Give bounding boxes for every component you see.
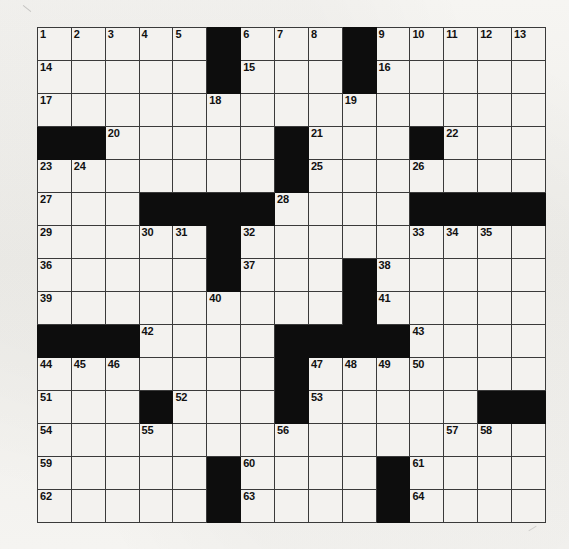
crossword-cell[interactable]: 57 <box>444 424 478 457</box>
crossword-cell[interactable] <box>308 457 342 490</box>
crossword-cell[interactable]: 30 <box>139 226 173 259</box>
crossword-cell[interactable] <box>512 127 546 160</box>
crossword-cell[interactable] <box>71 292 105 325</box>
crossword-cell[interactable] <box>241 358 275 391</box>
crossword-cell[interactable] <box>173 160 207 193</box>
crossword-cell[interactable] <box>241 391 275 424</box>
crossword-cell[interactable]: 7 <box>275 28 309 61</box>
crossword-cell[interactable] <box>105 61 139 94</box>
crossword-cell[interactable] <box>512 292 546 325</box>
crossword-cell[interactable]: 21 <box>308 127 342 160</box>
crossword-cell[interactable] <box>207 160 241 193</box>
crossword-cell[interactable] <box>478 259 512 292</box>
crossword-cell[interactable] <box>105 160 139 193</box>
crossword-cell[interactable] <box>71 259 105 292</box>
crossword-cell[interactable]: 59 <box>38 457 72 490</box>
crossword-cell[interactable] <box>512 424 546 457</box>
crossword-cell[interactable] <box>173 259 207 292</box>
crossword-cell[interactable]: 31 <box>173 226 207 259</box>
crossword-cell[interactable] <box>308 292 342 325</box>
crossword-cell[interactable] <box>241 325 275 358</box>
crossword-cell[interactable] <box>444 259 478 292</box>
crossword-cell[interactable] <box>376 94 410 127</box>
crossword-cell[interactable] <box>308 193 342 226</box>
crossword-cell[interactable] <box>410 94 444 127</box>
crossword-cell[interactable]: 33 <box>410 226 444 259</box>
crossword-cell[interactable] <box>512 457 546 490</box>
crossword-cell[interactable]: 62 <box>38 490 72 523</box>
crossword-cell[interactable] <box>139 160 173 193</box>
crossword-cell[interactable] <box>376 160 410 193</box>
crossword-cell[interactable] <box>139 292 173 325</box>
crossword-cell[interactable]: 22 <box>444 127 478 160</box>
crossword-cell[interactable]: 14 <box>38 61 72 94</box>
crossword-cell[interactable] <box>410 391 444 424</box>
crossword-cell[interactable]: 12 <box>478 28 512 61</box>
crossword-cell[interactable] <box>478 292 512 325</box>
crossword-cell[interactable]: 63 <box>241 490 275 523</box>
crossword-cell[interactable]: 34 <box>444 226 478 259</box>
crossword-cell[interactable]: 58 <box>478 424 512 457</box>
crossword-cell[interactable]: 1 <box>38 28 72 61</box>
crossword-cell[interactable]: 45 <box>71 358 105 391</box>
crossword-cell[interactable]: 53 <box>308 391 342 424</box>
crossword-cell[interactable] <box>105 391 139 424</box>
crossword-cell[interactable]: 27 <box>38 193 72 226</box>
crossword-cell[interactable]: 28 <box>275 193 309 226</box>
crossword-cell[interactable] <box>444 61 478 94</box>
crossword-cell[interactable] <box>410 61 444 94</box>
crossword-cell[interactable] <box>275 490 309 523</box>
crossword-cell[interactable]: 10 <box>410 28 444 61</box>
crossword-cell[interactable] <box>478 358 512 391</box>
crossword-cell[interactable]: 55 <box>139 424 173 457</box>
crossword-cell[interactable]: 49 <box>376 358 410 391</box>
crossword-cell[interactable]: 26 <box>410 160 444 193</box>
crossword-cell[interactable] <box>207 424 241 457</box>
crossword-cell[interactable]: 11 <box>444 28 478 61</box>
crossword-cell[interactable] <box>275 457 309 490</box>
crossword-cell[interactable]: 43 <box>410 325 444 358</box>
crossword-cell[interactable] <box>444 490 478 523</box>
crossword-cell[interactable] <box>173 94 207 127</box>
crossword-cell[interactable]: 60 <box>241 457 275 490</box>
crossword-cell[interactable] <box>173 424 207 457</box>
crossword-cell[interactable] <box>139 127 173 160</box>
crossword-cell[interactable]: 15 <box>241 61 275 94</box>
crossword-cell[interactable] <box>410 292 444 325</box>
crossword-cell[interactable] <box>139 259 173 292</box>
crossword-cell[interactable] <box>512 94 546 127</box>
crossword-cell[interactable]: 61 <box>410 457 444 490</box>
crossword-cell[interactable] <box>173 325 207 358</box>
crossword-cell[interactable] <box>207 391 241 424</box>
crossword-cell[interactable] <box>71 193 105 226</box>
crossword-cell[interactable] <box>275 292 309 325</box>
crossword-cell[interactable] <box>342 424 376 457</box>
crossword-cell[interactable] <box>376 424 410 457</box>
crossword-cell[interactable] <box>241 160 275 193</box>
crossword-cell[interactable] <box>173 358 207 391</box>
crossword-cell[interactable] <box>173 292 207 325</box>
crossword-cell[interactable] <box>139 61 173 94</box>
crossword-cell[interactable]: 29 <box>38 226 72 259</box>
crossword-cell[interactable] <box>444 391 478 424</box>
crossword-cell[interactable]: 46 <box>105 358 139 391</box>
crossword-cell[interactable] <box>207 127 241 160</box>
crossword-cell[interactable]: 23 <box>38 160 72 193</box>
crossword-cell[interactable] <box>105 457 139 490</box>
crossword-cell[interactable]: 40 <box>207 292 241 325</box>
crossword-cell[interactable] <box>71 61 105 94</box>
crossword-cell[interactable] <box>173 61 207 94</box>
crossword-cell[interactable] <box>71 94 105 127</box>
crossword-cell[interactable]: 44 <box>38 358 72 391</box>
crossword-cell[interactable] <box>512 490 546 523</box>
crossword-cell[interactable] <box>342 457 376 490</box>
crossword-cell[interactable] <box>275 259 309 292</box>
crossword-cell[interactable]: 38 <box>376 259 410 292</box>
crossword-cell[interactable]: 56 <box>275 424 309 457</box>
crossword-cell[interactable] <box>478 457 512 490</box>
crossword-cell[interactable] <box>342 127 376 160</box>
crossword-cell[interactable]: 20 <box>105 127 139 160</box>
crossword-cell[interactable] <box>444 160 478 193</box>
crossword-cell[interactable]: 2 <box>71 28 105 61</box>
crossword-cell[interactable] <box>444 292 478 325</box>
